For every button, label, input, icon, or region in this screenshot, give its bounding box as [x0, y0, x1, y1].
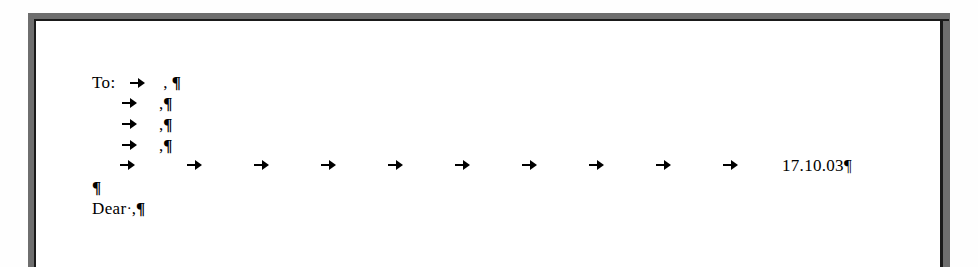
- tab-mark-icon: [120, 159, 135, 171]
- document-line-date[interactable]: 17.10.03¶: [92, 156, 902, 177]
- pilcrow-icon: ¶: [136, 198, 145, 219]
- pilcrow-icon: ¶: [172, 72, 181, 93]
- line-end-marks: ,¶: [159, 93, 172, 114]
- tab-mark-icon: [254, 159, 269, 171]
- comma-mark: ,: [163, 72, 167, 93]
- page-border-right: [940, 19, 943, 267]
- tab-mark-icon: [187, 159, 202, 171]
- line-end-marks: ,¶: [159, 135, 172, 156]
- line-end-marks: ,¶: [159, 114, 172, 135]
- salutation-label: Dear: [92, 198, 127, 219]
- tab-mark-icon: [321, 159, 336, 171]
- to-label: To:: [92, 72, 116, 93]
- pilcrow-icon: ¶: [163, 135, 172, 156]
- pilcrow-icon: ¶: [92, 177, 101, 198]
- tab-mark-icon: [656, 159, 671, 171]
- tab-mark-icon: [122, 118, 137, 130]
- document-line-empty[interactable]: ¶: [92, 177, 902, 198]
- scanned-document-screenshot: To: , ¶ ,¶ ,¶ ,¶ 17.10.0: [0, 0, 978, 267]
- tab-mark-icon: [589, 159, 604, 171]
- date-text: 17.10.03¶: [782, 155, 852, 176]
- document-line-recipient-2[interactable]: ,¶: [92, 93, 902, 114]
- tab-mark-icon: [122, 97, 137, 109]
- document-line-to[interactable]: To: , ¶: [92, 72, 902, 93]
- document-line-salutation[interactable]: Dear·,¶: [92, 198, 902, 219]
- page-frame-shadow-right: [943, 13, 950, 267]
- tab-mark-icon: [522, 159, 537, 171]
- tab-mark-icon: [388, 159, 403, 171]
- document-line-recipient-4[interactable]: ,¶: [92, 135, 902, 156]
- tab-mark-icon: [130, 77, 145, 89]
- tab-mark-icon: [723, 159, 738, 171]
- pilcrow-icon: ¶: [163, 114, 172, 135]
- pilcrow-icon: ¶: [163, 93, 172, 114]
- document-text-body[interactable]: To: , ¶ ,¶ ,¶ ,¶ 17.10.0: [92, 72, 902, 219]
- document-line-recipient-3[interactable]: ,¶: [92, 114, 902, 135]
- tab-mark-icon: [122, 139, 137, 151]
- tab-mark-icon: [455, 159, 470, 171]
